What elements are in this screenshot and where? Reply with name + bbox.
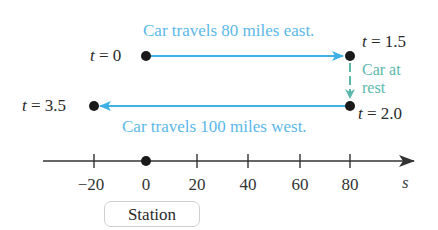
dot-t35 (89, 101, 99, 111)
dot-t20 (345, 101, 355, 111)
label-t20: t = 2.0 (358, 105, 402, 122)
dot-t0 (141, 51, 151, 61)
motion-diagram: Car travels 80 miles east. Car travels 1… (0, 0, 438, 230)
tick-label-20: 20 (189, 176, 206, 193)
label-t0: t = 0 (90, 47, 121, 64)
axis-variable-label: s (402, 174, 409, 191)
tick-label-0: 0 (142, 176, 151, 193)
top-caption: Car travels 80 miles east. (143, 22, 314, 39)
label-t35: t = 3.5 (22, 97, 66, 114)
tick-label-80: 80 (342, 176, 359, 193)
dot-t15 (345, 51, 355, 61)
tick-label-neg20: −20 (78, 176, 105, 193)
station-dot (141, 156, 151, 166)
rest-caption-line1: Car at (362, 62, 401, 78)
tick-label-40: 40 (240, 176, 257, 193)
station-label: Station (104, 201, 200, 227)
label-t15: t = 1.5 (362, 33, 406, 50)
tick-label-60: 60 (292, 176, 309, 193)
bottom-caption: Car travels 100 miles west. (122, 118, 307, 135)
rest-caption-line2: rest (362, 80, 385, 96)
